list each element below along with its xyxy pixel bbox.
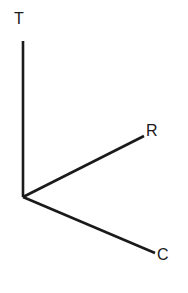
axis-label-t: T <box>14 11 24 27</box>
axis-label-c: C <box>157 247 169 263</box>
diagram-canvas: T R C <box>0 0 188 293</box>
axis-label-r: R <box>146 123 158 139</box>
